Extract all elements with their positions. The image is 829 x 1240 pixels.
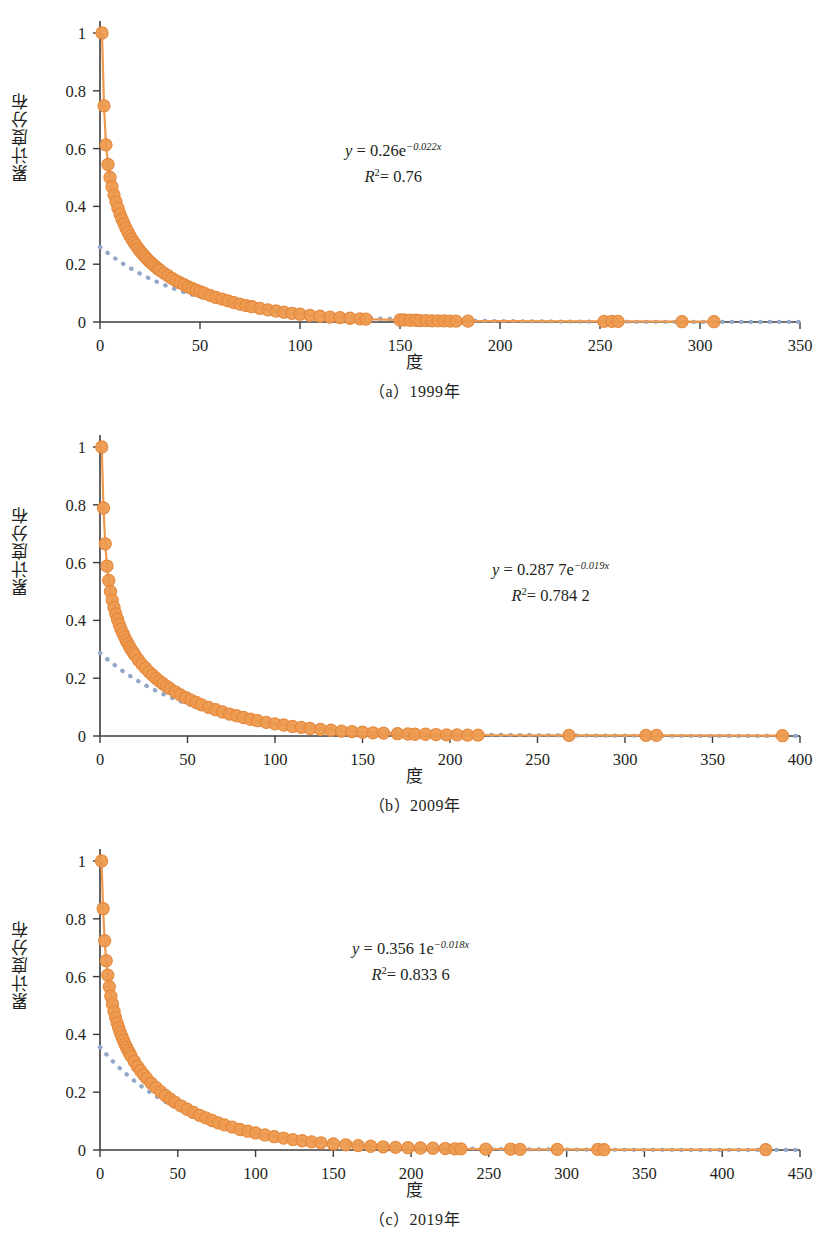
data-point: [455, 1143, 467, 1155]
y-tick-label: 0.8: [65, 496, 86, 515]
data-point: [340, 1139, 352, 1151]
data-point: [99, 538, 111, 550]
data-point: [96, 27, 108, 39]
data-point: [462, 315, 474, 327]
y-tick-label: 1: [78, 24, 86, 43]
y-tick-label: 0.2: [65, 255, 86, 274]
data-point: [760, 1144, 772, 1156]
data-point: [97, 502, 109, 514]
data-point: [101, 560, 113, 572]
y-tick-label: 0.4: [65, 197, 86, 216]
y-axis-label-c: 累计度分布: [8, 920, 42, 1010]
panel-caption-a: （a）1999年: [0, 378, 829, 402]
data-point: [360, 313, 372, 325]
data-point: [551, 1143, 563, 1155]
trendline: [100, 247, 800, 322]
y-tick-label: 0.6: [65, 140, 86, 159]
fit-equation-a: y = 0.26e−0.022x R2= 0.76: [345, 138, 441, 189]
equation-body-a: = 0.26e: [352, 141, 406, 160]
data-point: [98, 100, 110, 112]
data-point: [514, 1143, 526, 1155]
y-tick-label: 1: [78, 438, 86, 457]
y-axis-label-b: 累计度分布: [8, 506, 42, 596]
r2-label-a: R: [364, 167, 374, 186]
y-tick-label: 0.2: [65, 1083, 86, 1102]
data-point: [103, 574, 115, 586]
data-point: [377, 1141, 389, 1153]
series-line: [102, 861, 766, 1150]
chart-panel-b: 05010015020025030035040000.20.40.60.81 累…: [0, 414, 829, 824]
data-point: [97, 903, 109, 915]
data-point: [99, 935, 111, 947]
y-axis-label-a: 累计度分布: [8, 92, 42, 182]
chart-svg-b: 05010015020025030035040000.20.40.60.81: [0, 414, 829, 774]
data-point: [650, 729, 662, 741]
data-point: [100, 955, 112, 967]
panel-caption-c: （c）2019年: [0, 1206, 829, 1230]
r2-label-b: R: [511, 586, 521, 605]
equation-body-b: = 0.287 7e: [499, 560, 573, 579]
equation-body-c: = 0.356 1e: [359, 939, 433, 958]
y-tick-label: 0.4: [65, 611, 86, 630]
plot-area-c: 05010015020025030035040045000.20.40.60.8…: [0, 828, 829, 1188]
y-tick-label: 0.4: [65, 1025, 86, 1044]
fit-equation-c: y = 0.356 1e−0.018x R2= 0.833 6: [352, 936, 469, 987]
data-point: [95, 855, 107, 867]
r2-label-c: R: [371, 965, 381, 984]
series-line: [102, 447, 783, 736]
figure-cumulative-degree-distributions: 05010015020025030035000.20.40.60.81 累计度分…: [0, 0, 829, 1240]
data-point: [776, 730, 788, 742]
y-tick-label: 0.6: [65, 554, 86, 573]
data-point: [327, 1138, 339, 1150]
data-point: [315, 1137, 327, 1149]
data-point: [472, 729, 484, 741]
y-tick-label: 0.6: [65, 968, 86, 987]
fit-equation-b: y = 0.287 7e−0.019x R2= 0.784 2: [492, 557, 609, 608]
data-point: [480, 1143, 492, 1155]
y-tick-label: 0.8: [65, 82, 86, 101]
equation-exponent-b: −0.019x: [574, 560, 609, 571]
equation-exponent-c: −0.018x: [434, 939, 469, 950]
chart-svg-c: 05010015020025030035040045000.20.40.60.8…: [0, 828, 829, 1188]
plot-area-b: 05010015020025030035040000.20.40.60.81: [0, 414, 829, 774]
chart-panel-c: 05010015020025030035040045000.20.40.60.8…: [0, 828, 829, 1238]
y-tick-label: 0: [78, 1141, 86, 1160]
data-point: [598, 1144, 610, 1156]
trendline: [100, 653, 800, 736]
data-point: [102, 158, 114, 170]
panel-caption-b: （b）2009年: [0, 792, 829, 816]
data-point: [708, 316, 720, 328]
r2-value-c: = 0.833 6: [387, 965, 450, 984]
data-point: [414, 1142, 426, 1154]
trendline: [100, 1047, 800, 1150]
data-point: [563, 729, 575, 741]
y-tick-label: 0: [78, 727, 86, 746]
r2-value-a: = 0.76: [380, 167, 422, 186]
data-point: [96, 441, 108, 453]
y-tick-label: 0.8: [65, 910, 86, 929]
r2-value-b: = 0.784 2: [527, 586, 590, 605]
data-point: [450, 315, 462, 327]
x-axis-label-c: 度: [0, 1176, 829, 1201]
data-point: [612, 315, 624, 327]
data-point: [352, 1140, 364, 1152]
data-point: [102, 969, 114, 981]
data-point: [427, 1142, 439, 1154]
data-point: [100, 139, 112, 151]
x-axis-label-b: 度: [0, 762, 829, 787]
equation-exponent-a: −0.022x: [406, 141, 441, 152]
y-tick-label: 1: [78, 852, 86, 871]
y-tick-label: 0.2: [65, 669, 86, 688]
data-point: [377, 727, 389, 739]
x-axis-label-a: 度: [0, 348, 829, 373]
y-tick-label: 0: [78, 313, 86, 332]
data-point: [402, 1142, 414, 1154]
data-point: [389, 1141, 401, 1153]
data-point: [365, 1140, 377, 1152]
data-point: [676, 316, 688, 328]
chart-panel-a: 05010015020025030035000.20.40.60.81 累计度分…: [0, 0, 829, 410]
